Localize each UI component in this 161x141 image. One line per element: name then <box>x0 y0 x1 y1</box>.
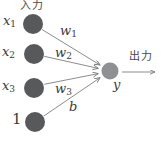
node-x2 <box>24 44 44 64</box>
node-bias <box>25 112 45 132</box>
weight-label-w3: w3 <box>55 82 72 95</box>
output-label: 出力 <box>129 51 153 62</box>
weight-label-w2: w2 <box>55 46 72 59</box>
label-sub: 3 <box>9 84 15 94</box>
label-sub: 3 <box>66 87 72 97</box>
node-label-x1: x1 <box>3 14 16 27</box>
node-label-x3: x3 <box>2 79 15 92</box>
label-base: w <box>55 81 66 96</box>
node-label-y: y <box>113 78 120 91</box>
bias-label-b: b <box>69 100 77 113</box>
input-label: 入力 <box>20 0 44 11</box>
label-base: w <box>60 23 71 38</box>
label-sub: 2 <box>66 51 72 61</box>
diagram-graphics <box>0 0 161 141</box>
perceptron-diagram: 入力 出力 x1 x2 x3 1 w1 w2 w3 b y <box>0 0 161 141</box>
node-label-bias: 1 <box>12 112 22 127</box>
node-x3 <box>24 78 44 98</box>
node-x1 <box>23 14 43 34</box>
label-base: w <box>55 45 66 60</box>
label-sub: 2 <box>9 50 15 60</box>
node-label-x2: x2 <box>2 45 15 58</box>
label-sub: 1 <box>71 29 77 39</box>
weight-label-w1: w1 <box>60 24 77 37</box>
label-sub: 1 <box>10 19 16 29</box>
